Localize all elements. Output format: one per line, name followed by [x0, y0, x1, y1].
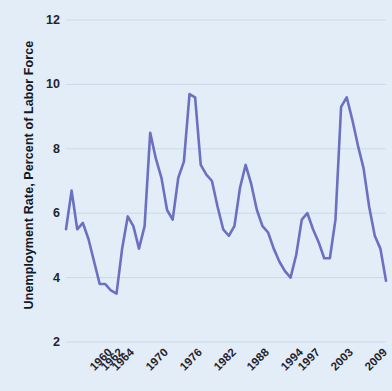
plot-area: [66, 20, 386, 342]
y-axis-tick-10: 10: [26, 77, 60, 91]
x-axis-tick-1970: 1970: [144, 346, 171, 373]
unemployment-line-chart: Unemployment Rate, Percent of Labor Forc…: [0, 0, 392, 391]
x-axis-tick-1988: 1988: [245, 346, 272, 373]
series-line-unemployment-rate: [66, 20, 386, 342]
x-axis-tick-2009: 2009: [363, 346, 390, 373]
y-axis-tick-6: 6: [26, 206, 60, 220]
y-axis-tick-8: 8: [26, 142, 60, 156]
y-axis-tick-12: 12: [26, 13, 60, 27]
x-axis-tick-2003: 2003: [329, 346, 356, 373]
x-axis-tick-labels: 1960196219641970197619821988199419972003…: [66, 346, 386, 391]
unemployment-rate-polyline: [66, 94, 386, 294]
y-axis-tick-4: 4: [26, 271, 60, 285]
x-axis-tick-1976: 1976: [177, 346, 204, 373]
y-axis-tick-2: 2: [26, 335, 60, 349]
x-axis-tick-1982: 1982: [211, 346, 238, 373]
y-axis-tick-labels: 24681012: [22, 0, 60, 391]
